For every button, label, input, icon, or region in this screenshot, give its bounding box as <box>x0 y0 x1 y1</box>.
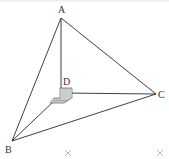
cross-marker-1 <box>65 150 71 156</box>
label-A: A <box>58 4 66 15</box>
edge-AB <box>12 18 61 141</box>
cross-marker-2 <box>157 150 163 156</box>
label-D: D <box>63 76 70 87</box>
cropped-text-line <box>0 0 169 2</box>
label-C: C <box>158 89 165 100</box>
edge-AC <box>61 18 156 94</box>
edge-BC <box>12 94 156 141</box>
label-B: B <box>5 144 12 155</box>
edge-BD <box>12 100 55 141</box>
right-angle-marker <box>50 88 72 103</box>
tetrahedron-diagram: A D C B <box>0 0 169 159</box>
edge-CD <box>61 93 156 94</box>
